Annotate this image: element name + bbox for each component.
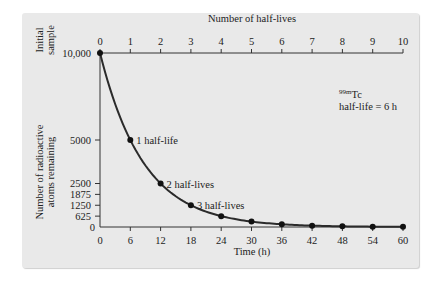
- data-point: [127, 137, 133, 143]
- initial-label-line1: Initial: [34, 27, 45, 52]
- y-tick-label: 0: [90, 222, 95, 233]
- data-point: [339, 223, 345, 229]
- top-tick-label: 2: [158, 36, 163, 47]
- isotope-symbol: 99mTc: [339, 88, 362, 100]
- y-tick-label: 625: [75, 211, 91, 222]
- top-tick-label: 3: [188, 36, 193, 47]
- decay-chart: 0612182430364248546001234567891006251250…: [0, 0, 441, 282]
- x-tick-label: 60: [398, 235, 409, 246]
- initial-label-line2: sample: [45, 25, 56, 55]
- top-tick-label: 0: [97, 36, 102, 47]
- half-life-annotation: 3 half-lives: [197, 200, 245, 211]
- data-point: [249, 219, 255, 225]
- top-tick-label: 8: [340, 36, 345, 47]
- x-tick-label: 30: [246, 235, 257, 246]
- x-axis-title: Time (h): [234, 246, 271, 258]
- data-point: [158, 181, 164, 187]
- data-point: [188, 202, 194, 208]
- data-point: [309, 223, 315, 229]
- y-axis-title-line2: atoms remaining: [45, 136, 56, 207]
- half-life-annotation: 1 half-life: [136, 135, 178, 146]
- x-tick-label: 6: [128, 235, 133, 246]
- isotope-mass-number: 99m: [339, 88, 352, 96]
- x-tick-label: 42: [307, 235, 318, 246]
- top-tick-label: 6: [279, 36, 284, 47]
- x-tick-label: 18: [186, 235, 197, 246]
- y-tick-label: 2500: [70, 178, 91, 189]
- x-tick-label: 36: [277, 235, 288, 246]
- top-tick-label: 1: [128, 36, 133, 47]
- x-tick-label: 0: [97, 235, 102, 246]
- x-tick-label: 12: [155, 235, 166, 246]
- top-tick-label: 7: [309, 36, 314, 47]
- y-axis-title: Number of radioactive atoms remaining: [34, 124, 56, 219]
- x-tick-label: 24: [216, 235, 227, 246]
- half-life-annotation: 2 half-lives: [167, 179, 215, 190]
- data-point: [370, 224, 376, 230]
- x-tick-label: 54: [367, 235, 378, 246]
- y-tick-label: 1875: [70, 189, 91, 200]
- isotope-element: Tc: [351, 89, 362, 100]
- data-point: [279, 221, 285, 227]
- half-life-label: half-life = 6 h: [339, 101, 398, 112]
- tick-labels: 0612182430364248546001234567891006251250…: [62, 36, 408, 246]
- top-tick-label: 10: [398, 36, 409, 47]
- y-tick-label: 10,000: [62, 48, 91, 59]
- top-tick-label: 9: [370, 36, 375, 47]
- data-point: [97, 50, 103, 56]
- data-point: [218, 213, 224, 219]
- y-axis-title-line1: Number of radioactive: [34, 124, 45, 219]
- top-tick-label: 5: [249, 36, 254, 47]
- isotope-label: 99mTc half-life = 6 h: [339, 88, 398, 112]
- top-axis-title: Number of half-lives: [208, 13, 296, 24]
- top-tick-label: 4: [219, 36, 225, 47]
- x-tick-label: 48: [337, 235, 348, 246]
- y-tick-label: 5000: [70, 135, 91, 146]
- y-tick-label: 1250: [70, 200, 91, 211]
- data-point: [400, 224, 406, 230]
- initial-sample-label: Initial sample: [34, 25, 56, 55]
